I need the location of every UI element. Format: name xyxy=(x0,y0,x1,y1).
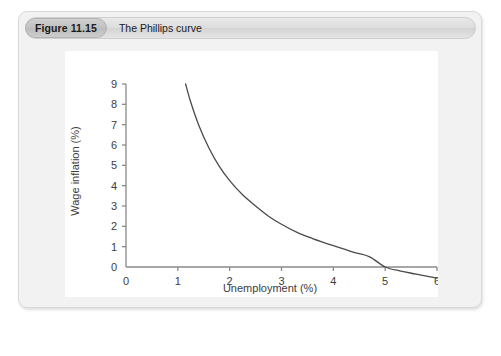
x-tick-label: 5 xyxy=(382,275,388,287)
phillips-curve-line xyxy=(186,84,437,278)
y-axis: 0123456789 xyxy=(111,78,126,273)
y-tick-label: 9 xyxy=(111,78,117,90)
y-tick-label: 0 xyxy=(111,261,117,273)
figure-card: Figure 11.15 The Phillips curve 01234567… xyxy=(18,11,482,308)
plot-panel: 0123456789 0123456 Unemployment (%) Wage… xyxy=(65,51,438,297)
y-tick-label: 3 xyxy=(111,200,117,212)
figure-caption-bar: Figure 11.15 The Phillips curve xyxy=(25,17,476,39)
x-tick-label: 4 xyxy=(330,275,336,287)
y-axis-title: Wage inflation (%) xyxy=(69,126,81,215)
y-tick-label: 5 xyxy=(111,159,117,171)
y-tick-label: 4 xyxy=(111,180,117,192)
x-axis-title: Unemployment (%) xyxy=(223,282,317,294)
figure-screenshot: Figure 11.15 The Phillips curve 01234567… xyxy=(0,0,501,356)
figure-title: The Phillips curve xyxy=(119,22,202,34)
curve-series xyxy=(186,84,437,278)
y-tick-label: 7 xyxy=(111,119,117,131)
y-tick-label: 6 xyxy=(111,139,117,151)
y-tick-label: 2 xyxy=(111,220,117,232)
x-tick-label: 0 xyxy=(123,275,129,287)
figure-number-badge: Figure 11.15 xyxy=(25,18,107,38)
y-tick-label: 1 xyxy=(111,241,117,253)
y-tick-label: 8 xyxy=(111,98,117,110)
x-tick-label: 6 xyxy=(434,275,438,287)
x-tick-label: 1 xyxy=(175,275,181,287)
phillips-curve-chart: 0123456789 0123456 Unemployment (%) Wage… xyxy=(65,51,438,297)
